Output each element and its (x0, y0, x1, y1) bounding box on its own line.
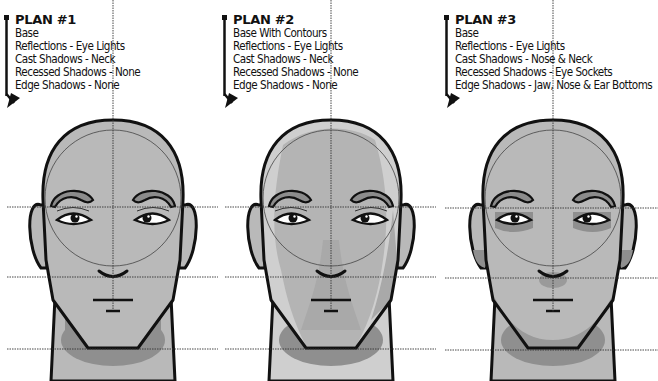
plan-item: Base (15, 27, 140, 40)
plan-item: Reflections - Eye Lights (233, 40, 358, 53)
plan-title: PLAN #3 (455, 13, 652, 27)
plan-item: Reflections - Eye Lights (15, 40, 140, 53)
plan-item: Reflections - Eye Lights (455, 40, 652, 53)
plan-item: Base With Contours (233, 27, 358, 40)
plan-item: Edge Shadows - Jaw, Nose & Ear Bottoms (455, 79, 652, 92)
plan-item: Base (455, 27, 652, 40)
plan-item: Edge Shadows - None (233, 79, 358, 92)
plan-title: PLAN #2 (233, 13, 358, 27)
plan-title: PLAN #1 (15, 13, 140, 27)
plan-item: Edge Shadows - None (15, 79, 140, 92)
